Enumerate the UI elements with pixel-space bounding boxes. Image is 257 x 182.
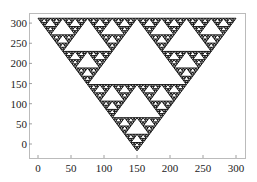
x-tick-label: 300 xyxy=(228,162,245,174)
x-tick-label: 250 xyxy=(195,162,212,174)
x-tick-label: 200 xyxy=(162,162,179,174)
x-tick-label: 150 xyxy=(129,162,146,174)
y-tick-label: 200 xyxy=(11,57,28,69)
y-tick-label: 100 xyxy=(11,98,28,110)
fractal-path xyxy=(38,18,236,151)
x-tick-label: 0 xyxy=(35,162,41,174)
y-tick-label: 300 xyxy=(11,17,28,29)
sierpinski-plot: 050100150200250300 050100150200250300 xyxy=(0,0,257,182)
y-tick-label: 150 xyxy=(11,78,28,90)
y-axis-ticks: 050100150200250300 xyxy=(11,17,33,150)
sierpinski-triangle xyxy=(38,18,236,151)
y-tick-label: 250 xyxy=(11,37,28,49)
y-tick-label: 50 xyxy=(16,118,28,130)
x-tick-label: 100 xyxy=(96,162,113,174)
x-tick-label: 50 xyxy=(66,162,78,174)
y-tick-label: 0 xyxy=(22,138,28,150)
x-axis-ticks: 050100150200250300 xyxy=(35,155,245,174)
